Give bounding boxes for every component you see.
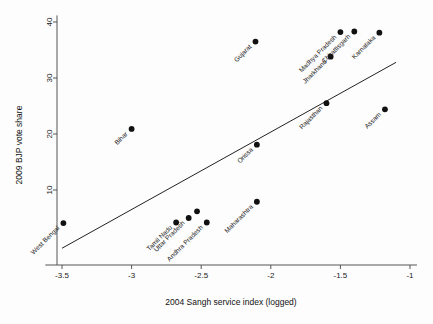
data-point — [382, 106, 388, 112]
x-axis-title: 2004 Sangh service index (logged) — [165, 297, 297, 307]
point-label: Orissa — [236, 146, 255, 165]
data-point — [186, 215, 192, 221]
x-tick-label: -3.5 — [55, 271, 69, 280]
x-tick-label: -2.5 — [194, 271, 208, 280]
point-label: Assam — [363, 110, 383, 130]
data-point — [338, 29, 344, 35]
point-label: Bihar — [113, 130, 129, 146]
x-axis: -3.5-3-2.5-2-1.5-1 — [45, 265, 417, 280]
y-axis-title: 2009 BJP vote share — [14, 105, 24, 184]
data-point — [324, 100, 330, 106]
plot-canvas: 10203040 -3.5-3-2.5-2-1.5-1 West BengalB… — [0, 0, 433, 324]
x-tick-label: -1 — [406, 271, 414, 280]
regression-line — [62, 62, 396, 248]
point-label: Karnataka — [350, 34, 376, 60]
data-point — [253, 39, 259, 45]
data-point — [204, 220, 210, 226]
data-points — [60, 29, 387, 226]
y-tick-label: 30 — [45, 73, 54, 82]
data-point — [254, 142, 260, 148]
data-point — [376, 30, 382, 36]
point-label: Maharashtra — [223, 203, 254, 234]
data-point — [60, 220, 66, 226]
x-tick-label: -3 — [128, 271, 136, 280]
point-label: Gujarat — [232, 43, 253, 64]
y-tick-label: 10 — [45, 185, 54, 194]
data-point — [194, 208, 200, 214]
data-point — [129, 126, 135, 132]
y-tick-label: 40 — [45, 17, 54, 26]
point-label: Rajasthan — [298, 104, 325, 131]
data-point — [254, 199, 260, 205]
data-point — [351, 29, 357, 35]
x-tick-label: -1.5 — [334, 271, 348, 280]
scatter-plot-figure: 10203040 -3.5-3-2.5-2-1.5-1 West BengalB… — [0, 0, 433, 324]
x-tick-label: -2 — [267, 271, 275, 280]
point-labels: West BengalBiharTamil NaduUttar PradeshA… — [29, 33, 382, 263]
y-tick-label: 20 — [45, 129, 54, 138]
